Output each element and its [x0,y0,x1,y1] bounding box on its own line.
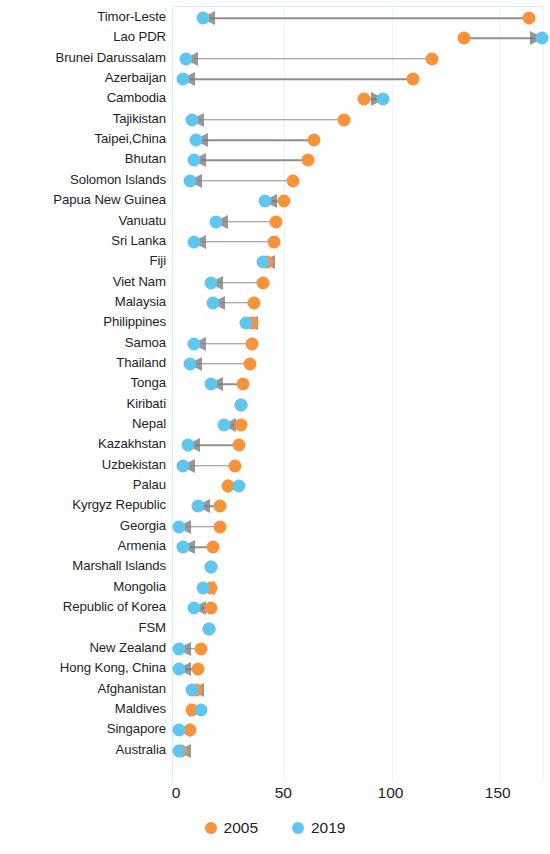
data-point-2019[interactable] [233,480,246,493]
data-point-2005[interactable] [246,337,259,350]
change-connector [196,139,314,141]
legend-item-2005[interactable]: 2005 [205,820,258,836]
gridline-150 [499,7,500,782]
category-label: Kyrgyz Republic [0,499,166,512]
data-point-2019[interactable] [183,357,196,370]
data-point-2005[interactable] [269,215,282,228]
legend-label: 2005 [224,820,258,836]
data-point-2005[interactable] [406,73,419,86]
category-label: Cambodia [0,92,166,105]
category-label: Palau [0,478,166,491]
data-point-2005[interactable] [233,439,246,452]
x-tick-label: 0 [172,784,181,802]
category-label: Maldives [0,702,166,715]
data-point-2019[interactable] [173,744,186,757]
category-label: Tajikistan [0,112,166,125]
data-point-2019[interactable] [186,113,199,126]
data-point-2005[interactable] [243,357,256,370]
category-label: Timor-Leste [0,10,166,23]
change-connector [190,180,293,182]
category-label: Nepal [0,417,166,430]
data-point-2019[interactable] [188,337,201,350]
data-point-2019[interactable] [173,724,186,737]
category-label: Papua New Guinea [0,194,166,207]
x-tick-label: 50 [275,784,292,802]
data-point-2019[interactable] [190,134,203,147]
data-point-2005[interactable] [522,12,535,25]
category-label: Singapore [0,723,166,736]
data-point-2019[interactable] [173,663,186,676]
category-label: Uzbekistan [0,458,166,471]
data-point-2005[interactable] [267,235,280,248]
data-point-2019[interactable] [239,317,252,330]
data-point-2019[interactable] [173,642,186,655]
category-label: Marshall Islands [0,560,166,573]
data-point-2005[interactable] [357,93,370,106]
category-label: Georgia [0,519,166,532]
data-point-2005[interactable] [248,296,261,309]
data-point-2005[interactable] [207,541,220,554]
data-point-2019[interactable] [188,235,201,248]
change-connector [194,160,308,162]
legend-label: 2019 [311,820,345,836]
data-point-2005[interactable] [278,195,291,208]
data-point-2005[interactable] [205,602,218,615]
category-label: Fiji [0,255,166,268]
category-label: Brunei Darussalam [0,51,166,64]
category-label: Bhutan [0,153,166,166]
legend-dot-icon [205,822,217,834]
legend-dot-icon [292,822,304,834]
data-point-2019[interactable] [173,520,186,533]
data-point-2005[interactable] [192,663,205,676]
data-point-2005[interactable] [301,154,314,167]
data-point-2019[interactable] [209,215,222,228]
data-point-2019[interactable] [177,73,190,86]
legend-item-2019[interactable]: 2019 [292,820,345,836]
data-point-2019[interactable] [194,703,207,716]
data-point-2005[interactable] [338,113,351,126]
data-point-2019[interactable] [235,398,248,411]
data-point-2019[interactable] [205,378,218,391]
data-point-2019[interactable] [376,93,389,106]
data-point-2005[interactable] [237,378,250,391]
category-label: FSM [0,621,166,634]
data-point-2019[interactable] [183,174,196,187]
gridline-50 [284,7,285,782]
data-point-2005[interactable] [286,174,299,187]
data-point-2019[interactable] [188,154,201,167]
data-point-2019[interactable] [188,602,201,615]
chart-root: Timor-LesteLao PDRBrunei DarussalamAzerb… [0,0,550,854]
data-point-2005[interactable] [213,520,226,533]
data-point-2019[interactable] [256,256,269,269]
category-label: New Zealand [0,641,166,654]
data-point-2019[interactable] [196,581,209,594]
data-point-2005[interactable] [228,459,241,472]
data-point-2005[interactable] [213,500,226,513]
data-point-2019[interactable] [177,459,190,472]
data-point-2019[interactable] [203,622,216,635]
data-point-2019[interactable] [177,541,190,554]
data-point-2019[interactable] [205,276,218,289]
chart-legend: 20052019 [0,820,550,836]
data-point-2005[interactable] [194,642,207,655]
data-point-2005[interactable] [308,134,321,147]
data-point-2019[interactable] [192,500,205,513]
data-point-2019[interactable] [535,32,548,45]
category-label: Kazakhstan [0,438,166,451]
data-point-2005[interactable] [426,52,439,65]
data-point-2019[interactable] [179,52,192,65]
data-point-2005[interactable] [458,32,471,45]
category-label: Armenia [0,539,166,552]
data-point-2019[interactable] [186,683,199,696]
category-label: Vanuatu [0,214,166,227]
data-point-2019[interactable] [205,561,218,574]
data-point-2005[interactable] [235,419,248,432]
data-point-2019[interactable] [196,12,209,25]
data-point-2019[interactable] [207,296,220,309]
data-point-2019[interactable] [258,195,271,208]
data-point-2019[interactable] [218,419,231,432]
x-tick-label: 150 [485,784,511,802]
category-label: Australia [0,743,166,756]
data-point-2019[interactable] [181,439,194,452]
data-point-2005[interactable] [256,276,269,289]
